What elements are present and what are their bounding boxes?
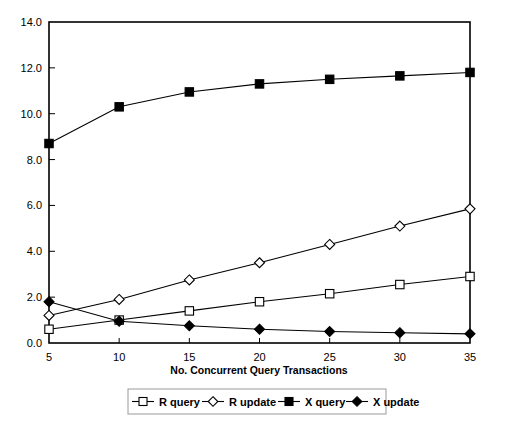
- y-axis-tick-marks: [49, 68, 55, 297]
- data-point-marker: [184, 275, 194, 285]
- x-tick-label: 25: [324, 351, 336, 363]
- legend-item-label: X query: [305, 396, 346, 408]
- data-point-marker: [396, 72, 404, 80]
- data-point-marker: [395, 328, 405, 338]
- data-point-marker: [466, 272, 474, 280]
- data-point-marker: [114, 294, 124, 304]
- data-point-marker: [45, 325, 53, 333]
- data-point-marker: [395, 221, 405, 231]
- x-tick-label: 35: [464, 351, 476, 363]
- y-tick-label: 14.0: [21, 16, 42, 28]
- legend-item-x-query[interactable]: X query: [278, 396, 346, 408]
- y-tick-label: 10.0: [21, 108, 42, 120]
- data-point-marker: [255, 258, 265, 268]
- y-tick-label: 12.0: [21, 62, 42, 74]
- x-tick-label: 15: [183, 351, 195, 363]
- data-point-marker: [465, 204, 475, 214]
- data-point-marker: [255, 324, 265, 334]
- series-x-query: [45, 68, 474, 147]
- data-point-marker: [185, 88, 193, 96]
- series-layer: [44, 68, 475, 339]
- legend-item-label: R query: [159, 396, 201, 408]
- data-point-marker: [115, 103, 123, 111]
- data-point-marker: [139, 398, 147, 406]
- x-tick-label: 20: [253, 351, 265, 363]
- legend-item-r-query[interactable]: R query: [132, 396, 201, 408]
- line-chart: 0.02.04.06.08.010.012.014.0 510152025303…: [0, 0, 505, 431]
- data-point-marker: [185, 307, 193, 315]
- legend: R queryR updateX queryX update: [132, 396, 419, 408]
- data-point-marker: [44, 310, 54, 320]
- y-tick-label: 0.0: [27, 337, 42, 349]
- x-tick-label: 10: [113, 351, 125, 363]
- y-tick-label: 2.0: [27, 291, 42, 303]
- x-tick-label: 30: [394, 351, 406, 363]
- data-point-marker: [255, 298, 263, 306]
- chart-container: 0.02.04.06.08.010.012.014.0 510152025303…: [0, 0, 505, 431]
- data-point-marker: [325, 290, 333, 298]
- x-tick-label: 5: [46, 351, 52, 363]
- data-point-marker: [45, 139, 53, 147]
- legend-item-x-update[interactable]: X update: [346, 396, 419, 408]
- y-axis-tick-labels: 0.02.04.06.08.010.012.014.0: [21, 16, 42, 349]
- data-point-marker: [325, 75, 333, 83]
- legend-item-label: R update: [229, 396, 276, 408]
- data-point-marker: [465, 329, 475, 339]
- legend-item-label: X update: [373, 396, 419, 408]
- y-tick-label: 4.0: [27, 245, 42, 257]
- plot-frame: [49, 22, 470, 343]
- data-point-marker: [396, 280, 404, 288]
- data-point-marker: [184, 321, 194, 331]
- x-axis-title: No. Concurrent Query Transactions: [170, 364, 348, 376]
- data-point-marker: [325, 239, 335, 249]
- x-axis-tick-labels: 5101520253035: [46, 351, 476, 363]
- data-point-marker: [466, 68, 474, 76]
- data-point-marker: [285, 398, 293, 406]
- y-tick-label: 6.0: [27, 199, 42, 211]
- data-point-marker: [325, 327, 335, 337]
- y-tick-label: 8.0: [27, 154, 42, 166]
- legend-item-r-update[interactable]: R update: [202, 396, 276, 408]
- data-point-marker: [255, 80, 263, 88]
- data-point-marker: [44, 297, 54, 307]
